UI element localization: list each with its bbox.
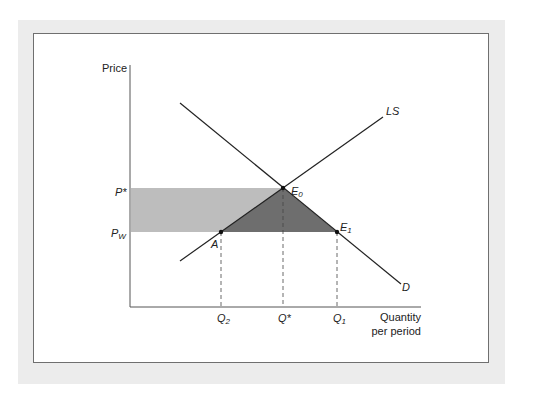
x-axis-label-line1: Quantity	[380, 311, 421, 323]
a-label: A	[210, 238, 218, 250]
e0-label: E0	[291, 185, 303, 199]
pw-label: PW	[111, 227, 127, 241]
supply-demand-diagram: Price Quantity per period LS D E0 E1 A P…	[0, 0, 533, 397]
supply-label: LS	[386, 105, 400, 117]
x-axis-label-line2: per period	[371, 325, 421, 337]
qstar-label: Q*	[278, 312, 292, 324]
q1-label: Q1	[333, 312, 346, 326]
point-e0	[281, 186, 285, 190]
q2-label: Q2	[217, 312, 231, 326]
p-star-label: P*	[115, 186, 127, 198]
y-axis-label: Price	[102, 62, 127, 74]
e1-label: E1	[340, 221, 352, 235]
point-a	[219, 230, 223, 234]
demand-label: D	[402, 281, 410, 293]
point-e1	[335, 230, 339, 234]
